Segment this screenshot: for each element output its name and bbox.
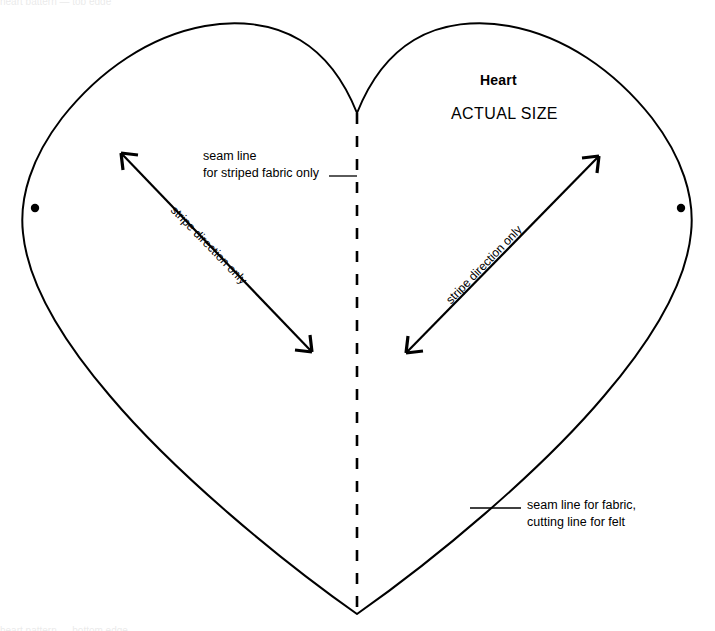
seam-line-striped-label-line2: for striped fabric only xyxy=(203,166,319,181)
page-title: Heart xyxy=(480,72,517,89)
actual-size-label: ACTUAL SIZE xyxy=(451,105,558,124)
heart-pattern-drawing xyxy=(0,0,715,631)
seam-line-striped-label-line1: seam line xyxy=(203,149,257,164)
registration-dot-left xyxy=(31,204,39,212)
seam-line-fabric-label-line1: seam line for fabric, xyxy=(527,498,636,513)
seam-line-fabric-label-line2: cutting line for felt xyxy=(527,515,625,530)
bottom-clipped-text: heart pattern — bottom edge xyxy=(0,625,715,631)
pattern-sheet: heart pattern — top edge Heart ACTUAL SI… xyxy=(0,0,715,631)
registration-dot-right xyxy=(677,204,685,212)
